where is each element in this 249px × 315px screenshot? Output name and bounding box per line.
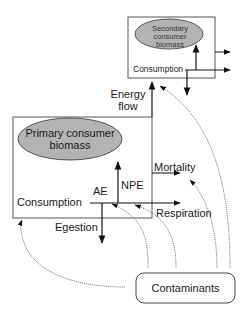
npe-label: NPE xyxy=(121,180,144,191)
primary-consumption-label: Consumption xyxy=(17,197,82,208)
ae-label: AE xyxy=(93,186,108,197)
primary-biomass-line1: Primary consumer xyxy=(22,128,118,140)
secondary-biomass-label: Secondary consumer biomass xyxy=(137,25,203,49)
energy-flow-line2: flow xyxy=(110,101,146,113)
respiration-label: Respiration xyxy=(156,208,212,219)
secondary-biomass-line1: Secondary consumer xyxy=(137,25,203,41)
mortality-label: Mortality xyxy=(154,162,196,173)
secondary-biomass-line2: biomass xyxy=(137,41,203,49)
contaminants-label: Contaminants xyxy=(136,283,235,294)
secondary-consumption-label: Consumption xyxy=(133,65,183,74)
energy-flow-label: Energy flow xyxy=(110,89,146,112)
diagram-canvas xyxy=(0,0,249,315)
egestion-label: Egestion xyxy=(55,222,98,233)
energy-flow-line1: Energy xyxy=(110,89,146,101)
primary-biomass-line2: biomass xyxy=(22,140,118,152)
primary-biomass-label: Primary consumer biomass xyxy=(22,128,118,151)
